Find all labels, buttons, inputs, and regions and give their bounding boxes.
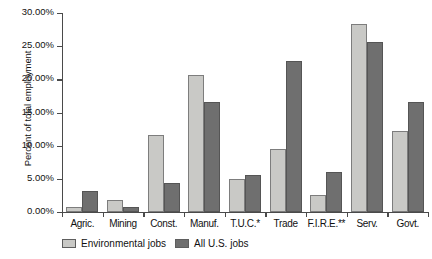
y-axis-tick-label: 20.00% <box>22 72 54 83</box>
legend-swatch <box>62 239 76 248</box>
x-axis-category-label: Manuf. <box>184 218 225 229</box>
bar-group <box>103 13 144 212</box>
x-axis-tick-mark <box>428 212 429 217</box>
bar <box>245 175 261 212</box>
bar <box>270 149 286 212</box>
x-axis-category-label: Mining <box>103 218 144 229</box>
x-axis-category-label: T.U.C.* <box>225 218 266 229</box>
chart-legend: Environmental jobsAll U.S. jobs <box>62 238 249 249</box>
bar-group <box>184 13 225 212</box>
legend-label: Environmental jobs <box>81 238 166 249</box>
legend-item: All U.S. jobs <box>175 238 248 249</box>
x-axis-category-label: Const. <box>143 218 184 229</box>
bar-group <box>265 13 306 212</box>
x-axis-category-label: Agric. <box>62 218 103 229</box>
bar <box>310 195 326 212</box>
bar-chart: Percent of total employment 0.00%5.00%10… <box>0 0 432 259</box>
y-axis-tick-label: 15.00% <box>22 106 54 117</box>
y-axis-tick-label: 0.00% <box>27 205 54 216</box>
bar-group <box>62 13 103 212</box>
y-axis-tick-label: 5.00% <box>27 172 54 183</box>
x-axis-tick-mark <box>306 212 307 217</box>
legend-swatch <box>175 239 189 248</box>
legend-item: Environmental jobs <box>62 238 166 249</box>
x-axis-tick-mark <box>62 212 63 217</box>
bar <box>82 191 98 212</box>
bar <box>188 75 204 212</box>
y-axis-tick-label: 10.00% <box>22 139 54 150</box>
bar <box>148 135 164 212</box>
bar <box>286 61 302 212</box>
bar-group <box>143 13 184 212</box>
y-axis-tick-label: 30.00% <box>22 6 54 17</box>
bar-group <box>306 13 347 212</box>
bar <box>326 172 342 212</box>
bar-group <box>225 13 266 212</box>
bar-group <box>347 13 388 212</box>
x-axis-tick-mark <box>103 212 104 217</box>
bar <box>107 200 123 212</box>
bar-groups <box>62 13 428 212</box>
bar <box>123 207 139 212</box>
bar <box>66 207 82 212</box>
x-axis-tick-mark <box>143 212 144 217</box>
x-axis-category-label: F.I.R.E.** <box>306 218 347 229</box>
bar <box>204 102 220 212</box>
bar <box>408 102 424 212</box>
x-axis-category-labels: Agric.MiningConst.Manuf.T.U.C.*TradeF.I.… <box>62 218 428 229</box>
x-axis-tick-mark <box>184 212 185 217</box>
bar <box>164 183 180 212</box>
x-axis-tick-mark <box>265 212 266 217</box>
legend-label: All U.S. jobs <box>194 238 248 249</box>
bar-group <box>387 13 428 212</box>
x-axis-tick-mark <box>347 212 348 217</box>
bar <box>229 179 245 212</box>
x-axis-category-label: Trade <box>265 218 306 229</box>
bar <box>392 131 408 212</box>
x-axis-category-label: Govt. <box>387 218 428 229</box>
bar <box>351 24 367 212</box>
x-axis-tick-mark <box>225 212 226 217</box>
x-axis-category-label: Serv. <box>347 218 388 229</box>
x-axis-tick-mark <box>387 212 388 217</box>
y-axis-tick-label: 25.00% <box>22 39 54 50</box>
bar <box>367 42 383 212</box>
